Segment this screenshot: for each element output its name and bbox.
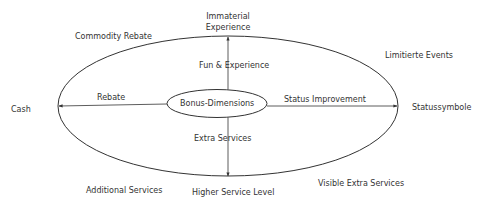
center-node-label: Bonus-Dimensions [180, 98, 254, 109]
axis-endpoint-left: Cash [11, 104, 31, 115]
axis-endpoint-bottom: Higher Service Level [192, 187, 274, 198]
axis-label-left: Rebate [97, 92, 125, 103]
axis-label-up: Fun & Experience [199, 60, 269, 71]
quadrant-label-bottom-left: Additional Services [86, 185, 162, 196]
axis-endpoint-top-line2: Experience [198, 22, 258, 33]
axis-label-right: Status Improvement [284, 94, 366, 105]
quadrant-label-bottom-right: Visible Extra Services [318, 178, 404, 189]
axis-endpoint-top-line1: Immaterial [198, 11, 258, 22]
quadrant-label-top-right: Limitierte Events [385, 50, 453, 61]
axis-endpoint-right: Statussymbole [412, 102, 471, 113]
quadrant-label-top-left: Commodity Rebate [75, 31, 152, 42]
axis-label-down: Extra Services [194, 133, 251, 144]
arrow-left [59, 104, 167, 106]
